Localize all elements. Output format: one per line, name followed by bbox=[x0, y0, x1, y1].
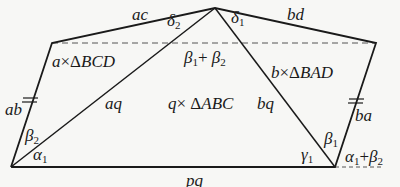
region-label-bad: b×ΔBAD bbox=[271, 64, 333, 81]
edge-label-ac: ac bbox=[132, 6, 148, 23]
outer-pentagon bbox=[11, 8, 376, 167]
edge-label-pq: pq bbox=[186, 172, 203, 187]
angle-label-alpha1-left: α1 bbox=[33, 146, 47, 165]
region-label-bcd: a×ΔBCD bbox=[52, 53, 115, 70]
diagonal-bq bbox=[215, 8, 335, 167]
edge-label-ab: ab bbox=[5, 101, 22, 118]
angle-label-delta1: δ1 bbox=[231, 9, 244, 28]
edge-label-bq: bq bbox=[257, 95, 274, 112]
edge-label-aq: aq bbox=[105, 95, 122, 112]
angle-label-beta2-left: β2 bbox=[25, 127, 39, 146]
region-label-abc: q× ΔABC bbox=[168, 95, 233, 112]
angle-label-alpha1-plus-beta2: α1+β2 bbox=[345, 148, 383, 167]
angle-label-delta2: δ2 bbox=[167, 12, 180, 31]
geometry-diagram: ac bd ab ba aq bq pq a×ΔBCD q× ΔABC b×ΔB… bbox=[0, 0, 400, 187]
angle-label-beta1-right: β1 bbox=[324, 130, 338, 149]
edge-label-bd: bd bbox=[287, 6, 304, 23]
edge-label-ba: ba bbox=[355, 107, 372, 124]
tick-marks-ab bbox=[22, 98, 38, 102]
diagonal-aq bbox=[11, 8, 215, 167]
angle-label-gamma1: γ1 bbox=[301, 146, 313, 165]
angle-label-beta1-plus-beta2: β1+ β2 bbox=[184, 49, 226, 68]
